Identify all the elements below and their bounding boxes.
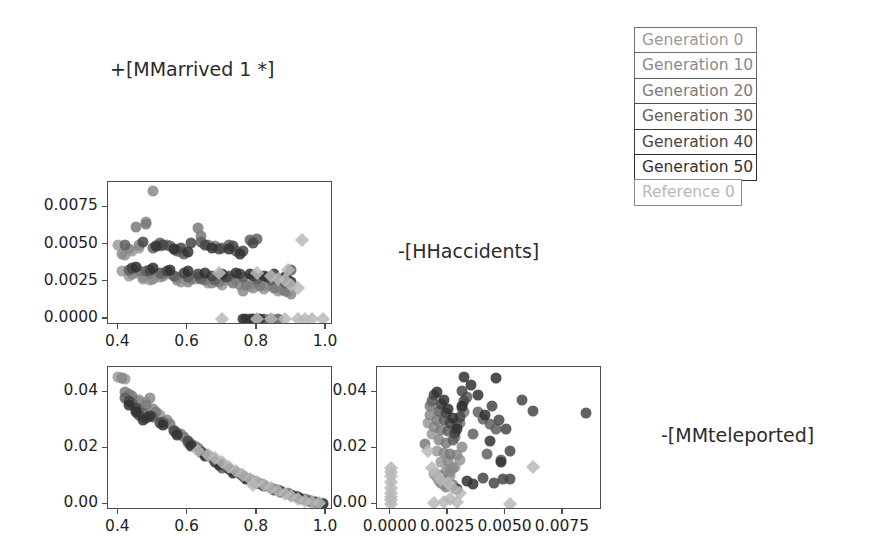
x-tick-mark [186,324,187,329]
x-tick-mark [255,509,256,514]
y-tick-mark [102,206,107,207]
data-point [231,267,242,278]
x-tick-mark [504,509,505,514]
data-point [130,221,141,232]
data-point [224,244,235,255]
data-point [495,456,506,467]
legend-item[interactable]: Reference 0 [634,179,742,206]
y-tick-mark [371,391,376,392]
data-point [148,263,159,274]
data-point [468,429,479,440]
y-tick-mark [371,503,376,504]
data-point [528,406,539,417]
data-point [505,474,516,485]
data-point [456,441,467,452]
data-point [151,241,162,252]
data-point [484,436,495,447]
x-tick-mark [117,509,118,514]
data-point [505,446,516,457]
axis-title-accidents: -[HHaccidents] [398,240,539,262]
data-point [130,261,141,272]
y-tick-mark [102,391,107,392]
data-point [172,429,183,440]
data-point [141,218,152,229]
x-tick-mark [186,509,187,514]
x-tick-mark [389,509,390,514]
x-tick-mark [561,509,562,514]
data-point [526,459,540,473]
legend-item[interactable]: Generation 10 [634,52,757,79]
x-tick-mark [255,324,256,329]
data-point [447,413,458,424]
data-point [116,373,127,384]
legend-item[interactable]: Generation 50 [634,154,757,181]
y-tick-label: 0.00 [0,493,98,511]
legend-item[interactable]: Generation 20 [634,78,757,105]
data-point [215,312,229,324]
data-point [580,408,591,419]
data-point [468,479,479,490]
data-point [491,373,502,384]
data-point [473,390,484,401]
x-tick-mark [324,324,325,329]
y-tick-mark [102,447,107,448]
plot-area-marrived-vs-accidents [107,181,332,324]
y-tick-label: 0.04 [0,381,98,399]
plot-area-accidents-vs-teleported [376,366,601,509]
data-point [165,264,176,275]
data-point [503,496,517,509]
data-point [144,411,155,422]
y-tick-label: 0.0000 [0,308,98,326]
data-point [516,395,527,406]
y-tick-label: 0.0075 [0,196,98,214]
data-point [234,248,245,259]
y-tick-label: 0.0025 [0,271,98,289]
data-point [199,267,210,278]
data-point [456,401,467,412]
data-point [238,314,249,324]
data-point [158,420,169,431]
y-tick-mark [371,447,376,448]
data-point [477,472,488,483]
data-point [248,238,259,249]
data-point [295,233,309,247]
data-point [316,312,330,324]
y-tick-mark [102,503,107,504]
y-tick-mark [102,280,107,281]
y-tick-label: 0.00 [267,493,367,511]
y-tick-label: 0.04 [267,381,367,399]
legend-item[interactable]: Generation 40 [634,129,757,156]
data-point [452,423,463,434]
data-point [148,185,159,196]
data-point [137,236,148,247]
data-point [500,424,511,435]
data-point [479,410,490,421]
legend-item[interactable]: Generation 30 [634,103,757,130]
figure-canvas: +[MMarrived 1 *] -[HHaccidents] -[MMtele… [0,0,883,558]
y-tick-label: 0.02 [0,437,98,455]
x-tick-mark [117,324,118,329]
y-tick-mark [102,317,107,318]
data-point [168,244,179,255]
data-point [182,266,193,277]
data-point [482,448,493,459]
data-point [206,242,217,253]
x-tick-mark [446,509,447,514]
x-tick-label: 0.0075 [517,517,607,535]
y-tick-mark [102,243,107,244]
data-point [182,247,193,258]
data-point [445,448,456,459]
y-tick-label: 0.0050 [0,234,98,252]
y-tick-label: 0.02 [267,437,367,455]
axis-title-teleported: -[MMteleported] [661,424,814,446]
x-tick-label: 1.0 [280,332,370,350]
axis-title-marrived: +[MMarrived 1 *] [110,58,274,80]
legend-item[interactable]: Generation 0 [634,27,757,54]
data-point [120,239,131,250]
legend: Generation 0Generation 10Generation 20Ge… [634,27,757,205]
